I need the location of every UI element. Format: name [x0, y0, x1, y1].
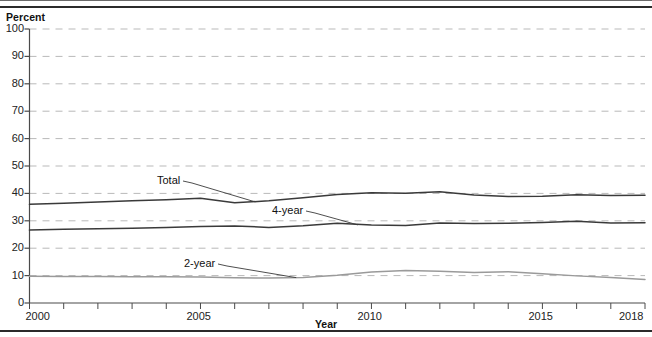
series-label-2-year: 2-year — [184, 258, 215, 269]
y-tick-label-10: 10 — [0, 270, 24, 281]
leader-line-4-year — [306, 211, 358, 225]
y-tick-label-20: 20 — [0, 242, 24, 253]
footer-divider — [0, 330, 652, 332]
y-tick-marks-group — [25, 29, 30, 303]
y-tick-label-0: 0 — [0, 297, 24, 308]
y-tick-label-50: 50 — [0, 160, 24, 171]
y-tick-label-30: 30 — [0, 215, 24, 226]
series-line-4-year — [30, 221, 646, 230]
y-tick-label-80: 80 — [0, 78, 24, 89]
y-tick-label-40: 40 — [0, 187, 24, 198]
series-label-4-year: 4-year — [272, 205, 303, 216]
gridlines-group — [30, 29, 646, 276]
series-label-total: Total — [157, 175, 180, 186]
series-line-2-year — [30, 270, 646, 279]
x-tick-marks-group — [30, 303, 646, 309]
plot-area — [0, 0, 652, 337]
y-tick-label-60: 60 — [0, 133, 24, 144]
series-lines-group — [30, 192, 646, 280]
chart-figure: Percent 0102030405060708090100 200020052… — [0, 0, 652, 337]
y-tick-label-70: 70 — [0, 105, 24, 116]
y-tick-label-100: 100 — [0, 23, 24, 34]
x-axis-title: Year — [0, 318, 652, 330]
y-tick-label-90: 90 — [0, 50, 24, 61]
